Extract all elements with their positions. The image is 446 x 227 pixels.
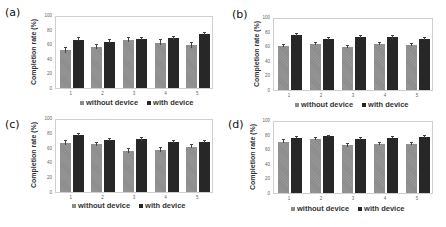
error-bar-cap xyxy=(423,37,426,38)
bar-without-device xyxy=(374,144,385,193)
chart-panel-d: (d) Completion rate (%)02040608010012345… xyxy=(223,113,446,226)
legend-swatch-gray-icon xyxy=(291,207,295,211)
legend-label: with device xyxy=(368,100,408,109)
legend-swatch-gray-icon xyxy=(295,103,299,107)
panel-label: (c) xyxy=(5,118,20,131)
bar-with-device xyxy=(136,139,147,192)
y-tick-label: 100 xyxy=(256,118,270,123)
y-tick-label: 40 xyxy=(38,57,52,62)
legend-item-with-device: with device xyxy=(139,201,185,210)
error-bar xyxy=(360,138,361,139)
error-bar xyxy=(411,44,412,46)
x-tick-label: 5 xyxy=(192,91,202,96)
panel-label: (b) xyxy=(232,8,248,21)
y-tick-label: 0 xyxy=(38,86,52,91)
bar-without-device xyxy=(155,43,166,88)
error-bar-cap xyxy=(346,45,349,46)
y-tick-label: 100 xyxy=(38,116,52,121)
x-tick-label: 3 xyxy=(348,196,358,201)
error-bar xyxy=(283,45,284,47)
error-bar-cap xyxy=(391,136,394,137)
error-bar-cap xyxy=(327,37,330,38)
x-tick-label: 3 xyxy=(129,195,139,200)
y-tick-label: 100 xyxy=(38,13,52,18)
error-bar-cap xyxy=(140,37,143,38)
error-bar xyxy=(128,149,129,153)
y-tick-label: 80 xyxy=(256,133,270,138)
error-bar-cap xyxy=(378,42,381,43)
bar-without-device xyxy=(91,144,102,192)
bar-with-device xyxy=(199,34,210,88)
chart-panel-a: (a) Completion rate (%)02040608010012345… xyxy=(0,0,223,113)
error-bar xyxy=(424,38,425,40)
legend-swatch-black-icon xyxy=(358,207,362,211)
error-bar-cap xyxy=(140,137,143,138)
panel-label: (a) xyxy=(5,6,20,19)
bar-with-device xyxy=(291,138,302,193)
error-bar xyxy=(78,38,79,41)
bar-with-device xyxy=(323,39,334,90)
legend: without devicewith device xyxy=(291,204,414,213)
bar-with-device xyxy=(199,142,210,192)
x-tick-label: 1 xyxy=(66,91,76,96)
error-bar xyxy=(78,134,79,136)
error-bar xyxy=(204,141,205,143)
legend-item-with-device: with device xyxy=(362,100,408,109)
y-axis-title: Completion rate (%) xyxy=(30,18,37,84)
bar-without-device xyxy=(186,147,197,192)
error-bar xyxy=(379,143,380,146)
error-bar-cap xyxy=(282,139,285,140)
error-bar-cap xyxy=(159,39,162,40)
error-bar xyxy=(392,36,393,38)
legend: without devicewith device xyxy=(295,100,418,109)
y-tick-label: 0 xyxy=(256,191,270,196)
y-tick-label: 80 xyxy=(256,30,270,35)
bar-without-device xyxy=(60,143,71,192)
error-bar xyxy=(65,141,66,145)
bar-without-device xyxy=(278,46,289,90)
plot-area xyxy=(273,121,433,194)
legend: without devicewith device xyxy=(80,98,203,107)
x-tick-label: 4 xyxy=(161,91,171,96)
error-bar xyxy=(328,136,329,137)
error-bar xyxy=(109,40,110,43)
y-tick-label: 60 xyxy=(256,44,270,49)
y-tick-label: 60 xyxy=(256,147,270,152)
error-bar xyxy=(379,43,380,45)
plot-area xyxy=(273,18,433,91)
error-bar xyxy=(141,138,142,140)
y-tick-label: 40 xyxy=(38,160,52,165)
chart-panel-b: (b) Completion rate (%)02040608010012345… xyxy=(223,0,446,113)
error-bar xyxy=(315,43,316,45)
bar-with-device xyxy=(73,135,84,192)
error-bar-cap xyxy=(359,137,362,138)
error-bar-cap xyxy=(77,133,80,134)
bar-with-device xyxy=(104,140,115,192)
legend-swatch-black-icon xyxy=(139,204,143,208)
error-bar-cap xyxy=(359,35,362,36)
legend-swatch-black-icon xyxy=(362,103,366,107)
chart-panel-c: (c) Completion rate (%)02040608010012345… xyxy=(0,113,223,226)
error-bar xyxy=(173,37,174,40)
error-bar-cap xyxy=(95,142,98,143)
error-bar xyxy=(128,38,129,42)
bar-without-device xyxy=(123,40,134,88)
plot-area xyxy=(55,119,213,193)
y-tick-label: 60 xyxy=(38,146,52,151)
error-bar xyxy=(347,46,348,48)
error-bar xyxy=(160,148,161,152)
y-axis-title: Completion rate (%) xyxy=(30,122,37,188)
error-bar xyxy=(424,136,425,137)
y-tick-label: 40 xyxy=(256,162,270,167)
legend-item-with-device: with device xyxy=(358,204,404,213)
error-bar xyxy=(191,43,192,47)
error-bar xyxy=(328,38,329,40)
x-tick-label: 4 xyxy=(380,196,390,201)
legend-label: without device xyxy=(297,204,349,213)
error-bar-cap xyxy=(190,42,193,43)
error-bar-cap xyxy=(127,37,130,38)
error-bar-cap xyxy=(295,136,298,137)
error-bar xyxy=(392,137,393,138)
y-tick-label: 20 xyxy=(38,175,52,180)
y-tick-label: 80 xyxy=(38,28,52,33)
